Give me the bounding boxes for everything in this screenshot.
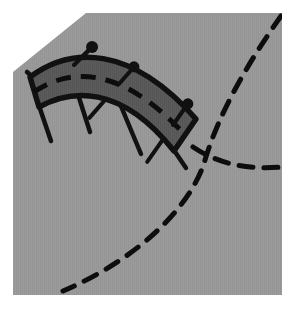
figure-canvas [0,0,290,320]
background-field [13,13,282,295]
pin-head-icon [86,41,98,53]
figure-root: Curved band with pins crossing a dashed … [0,0,290,320]
pin-head-icon [182,98,193,109]
pin-head-icon [128,61,139,72]
